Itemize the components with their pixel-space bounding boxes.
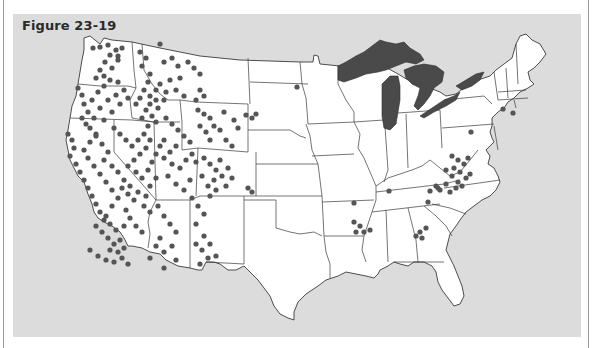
map-dot [229,175,234,180]
map-dot [149,159,154,164]
map-dot [197,261,202,266]
map-dot [105,149,110,154]
map-dot [139,115,144,120]
map-dot [129,143,134,148]
map-dot [463,175,468,180]
map-dot [97,44,102,49]
map-dot [71,145,76,150]
map-dot [101,117,106,122]
map-dot [141,87,146,92]
map-dot [353,229,358,234]
map-dot [153,97,158,102]
map-dot [111,259,116,264]
map-dot [135,137,140,142]
map-dot [163,115,168,120]
map-dot [161,155,166,160]
map-dot [85,109,90,114]
map-dot [425,199,430,204]
map-dot [443,167,448,172]
map-dot [123,137,128,142]
map-dot [77,169,82,174]
map-dot [161,59,166,64]
map-dot [455,157,460,162]
map-dot [427,188,432,193]
map-dot [417,229,422,234]
map-dot [167,149,172,154]
map-dot [141,203,146,208]
map-dot [193,159,198,164]
map-dot [93,133,98,138]
map-dot [141,131,146,136]
map-dot [165,173,170,178]
map-dot [95,253,100,258]
map-dot [161,265,166,270]
map-dot [145,123,150,128]
map-dot [351,200,356,205]
map-dot [81,101,86,106]
map-dot [97,171,102,176]
map-dot [125,191,130,196]
map-dot [207,241,212,246]
map-dot [197,87,202,92]
map-dot [153,87,158,92]
map-dot [447,189,452,194]
map-dot [201,111,206,116]
map-dot [87,139,92,144]
map-dot [145,167,150,172]
map-dot [183,157,188,162]
map-dot [143,145,148,150]
map-dot [357,223,362,228]
map-dot [413,233,418,238]
map-dot [107,77,112,82]
map-dot [169,161,174,166]
map-dot [173,143,178,148]
map-dot [205,255,210,260]
map-dot [423,225,428,230]
map-dot [109,187,114,192]
map-dot [65,131,70,136]
map-dot [139,63,144,68]
map-dot [207,137,212,142]
map-dot [197,71,202,76]
map-dot [115,195,120,200]
map-dot [115,57,120,62]
map-dot [294,84,299,89]
map-dot [223,137,228,142]
map-dot [73,161,78,166]
map-dot [173,87,178,92]
map-dot [157,143,162,148]
map-dot [189,195,194,200]
map-dot [201,211,206,216]
map-dot [433,183,438,188]
map-dot [147,101,152,106]
map-dot [193,97,198,102]
map-dot [468,129,473,134]
map-dot [127,183,132,188]
map-dot [147,255,152,260]
map-dot [199,173,204,178]
map-dot [153,119,158,124]
map-dot [449,173,454,178]
map-dot [197,123,202,128]
map-dot [169,121,174,126]
map-dot [115,249,120,254]
map-dot [105,97,110,102]
map-dot [419,235,424,240]
map-dot [143,193,148,198]
map-dot [187,177,192,182]
map-dot [207,161,212,166]
map-dot [235,125,240,130]
map-dot [167,221,172,226]
map-dot [137,151,142,156]
map-dot [161,249,166,254]
map-dot [69,137,74,142]
map-dot [157,235,162,240]
map-dot [117,237,122,242]
us-map [0,0,593,348]
map-dot [147,209,152,214]
map-dot [101,157,106,162]
map-dot [221,109,226,114]
map-dot [93,223,98,228]
map-dot [127,215,132,220]
map-dot [121,87,126,92]
